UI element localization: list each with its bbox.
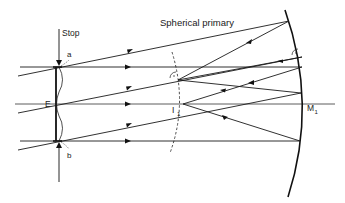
svg-text:I: I bbox=[172, 105, 174, 115]
svg-text:1: 1 bbox=[177, 111, 181, 117]
svg-text:M: M bbox=[307, 103, 314, 113]
b-pointer bbox=[61, 142, 69, 149]
schmidt-camera-diagram: Spherical primary Stop a b E I 1 M 1 bbox=[0, 0, 345, 203]
right-angle-mark-focus bbox=[170, 72, 176, 78]
label-m1: M 1 bbox=[307, 103, 319, 115]
label-a: a bbox=[67, 50, 72, 59]
incident-arrowheads bbox=[125, 49, 133, 144]
spherical-primary-mirror bbox=[285, 10, 302, 197]
stop-arrow-bottom bbox=[56, 142, 62, 182]
ray-oblique-mid bbox=[18, 57, 302, 113]
reflected-ray-4 bbox=[183, 67, 302, 104]
svg-text:1: 1 bbox=[315, 109, 319, 115]
a-pointer bbox=[61, 60, 69, 66]
stop-label: Stop bbox=[62, 28, 80, 38]
label-e: E bbox=[45, 99, 51, 109]
reflected-ray-1 bbox=[178, 21, 289, 80]
title-label: Spherical primary bbox=[160, 17, 234, 28]
label-b: b bbox=[67, 151, 72, 160]
reflected-ray-2 bbox=[178, 57, 302, 80]
reflected-ray-5 bbox=[183, 104, 300, 141]
